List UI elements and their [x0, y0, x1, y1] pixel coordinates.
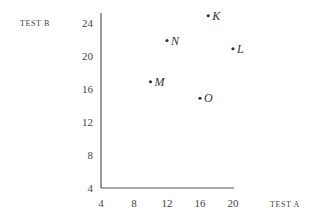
data-point-k: K — [207, 9, 222, 23]
data-points: KNLMO — [149, 9, 244, 106]
point-marker — [149, 80, 152, 83]
x-axis-label: TEST A — [270, 200, 300, 209]
point-label: O — [204, 91, 213, 105]
data-point-o: O — [198, 91, 213, 105]
point-marker — [198, 97, 201, 100]
x-tick-label: 20 — [228, 197, 240, 209]
point-marker — [165, 39, 168, 42]
y-axis-ticks: 4812162024 — [82, 17, 94, 194]
point-marker — [231, 47, 234, 50]
x-tick-label: 16 — [195, 197, 207, 209]
point-label: L — [236, 42, 244, 56]
y-axis-label: TEST B — [20, 19, 50, 28]
y-tick-label: 8 — [88, 149, 94, 161]
x-axis-ticks: 48121620 — [98, 197, 239, 209]
scatter-chart: 48121620 4812162024 TEST A TEST B KNLMO — [0, 0, 314, 213]
y-tick-label: 12 — [82, 116, 93, 128]
point-marker — [207, 14, 210, 17]
y-tick-label: 16 — [82, 83, 94, 95]
data-point-m: M — [149, 75, 166, 89]
point-label: N — [170, 34, 180, 48]
x-tick-label: 8 — [131, 197, 137, 209]
y-tick-label: 4 — [88, 182, 94, 194]
data-point-n: N — [165, 34, 180, 48]
x-tick-label: 12 — [162, 197, 173, 209]
x-tick-label: 4 — [98, 197, 104, 209]
y-tick-label: 20 — [82, 50, 94, 62]
point-label: M — [154, 75, 166, 89]
data-point-l: L — [231, 42, 244, 56]
point-label: K — [211, 9, 221, 23]
y-tick-label: 24 — [82, 17, 94, 29]
